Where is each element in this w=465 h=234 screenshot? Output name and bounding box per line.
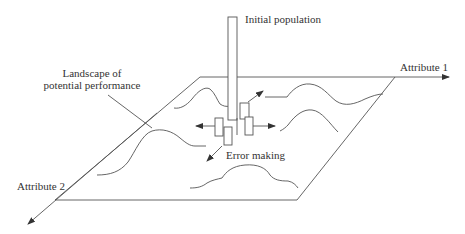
population-bar-1 — [215, 118, 223, 136]
error-making-label: Error making — [226, 149, 285, 161]
attribute-2-axis — [28, 113, 157, 224]
initial-population-label: Initial population — [245, 13, 322, 25]
performance-curve-top-right — [265, 84, 383, 104]
performance-curve-top-left — [174, 88, 230, 108]
attribute-2-label: Attribute 2 — [17, 180, 65, 192]
attribute-1-label: Attribute 1 — [400, 61, 448, 73]
landscape-label-line2: potential performance — [44, 79, 141, 91]
arrow-down-left-icon — [207, 146, 222, 161]
performance-curve-right — [280, 110, 338, 132]
initial-population-bar — [228, 17, 237, 120]
landscape-diagram: Initial population Attribute 1 Attribute… — [0, 0, 465, 234]
population-bar-2 — [224, 127, 232, 145]
population-bar-4 — [245, 117, 253, 135]
landscape-label-line1: Landscape of — [63, 67, 122, 79]
performance-curve-bottom — [190, 165, 298, 188]
landscape-leader-line — [108, 95, 152, 128]
arrow-up-right-icon — [248, 91, 263, 102]
performance-curve-left — [97, 130, 206, 175]
